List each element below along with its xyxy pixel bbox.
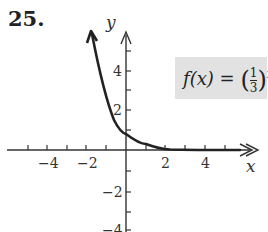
x-tick-label: −4 xyxy=(38,155,59,171)
formula-legend: f(x) = (13)x xyxy=(175,57,267,99)
formula-text: f(x) = (13)x xyxy=(183,66,268,94)
y-tick-label: −4 xyxy=(102,222,123,232)
x-axis-label: x xyxy=(246,156,256,176)
y-tick-label: −2 xyxy=(102,184,123,200)
y-ticks xyxy=(126,51,131,230)
x-tick-label: −2 xyxy=(77,155,98,171)
formula-lhs: f(x) = xyxy=(183,68,240,89)
formula-exponent: x xyxy=(267,67,268,81)
x-tick-label: 2 xyxy=(161,155,170,171)
y-axis-label: y xyxy=(105,12,116,32)
x-tick-label: 4 xyxy=(201,155,210,171)
y-tick-label: 4 xyxy=(113,63,122,79)
chart-plot: −4 −2 2 4 4 2 −2 −4 x y xyxy=(0,0,268,232)
y-tick-label: 2 xyxy=(113,102,122,118)
